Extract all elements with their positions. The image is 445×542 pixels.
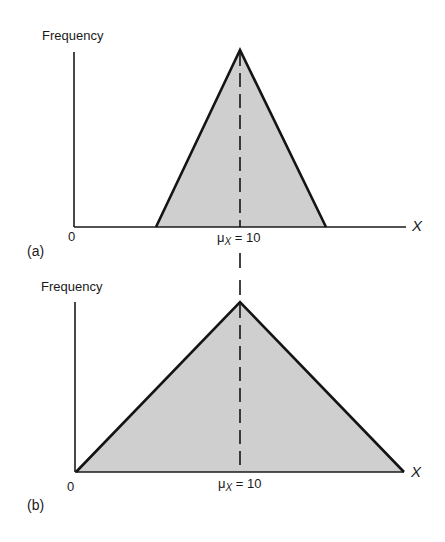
y-axis-label-b: Frequency — [41, 279, 103, 294]
panel-label-b: (b) — [27, 497, 44, 513]
x-axis-label-a: X — [411, 217, 423, 234]
x-axis-label-b: X — [410, 463, 422, 480]
origin-label-a: 0 — [68, 229, 75, 244]
panel-label-a: (a) — [27, 243, 44, 259]
mean-label-a: μX = 10 — [217, 230, 260, 247]
panel-b: Frequency 0 X μX = 10 (b) — [27, 279, 422, 513]
figure: Frequency 0 X μX = 10 (a) Frequency 0 X … — [0, 0, 445, 542]
y-axis-label-a: Frequency — [42, 28, 104, 43]
panel-a: Frequency 0 X μX = 10 (a) — [27, 28, 423, 259]
origin-label-b: 0 — [67, 479, 74, 494]
mean-label-b: μX = 10 — [218, 476, 261, 493]
distribution-area-a — [156, 50, 326, 227]
